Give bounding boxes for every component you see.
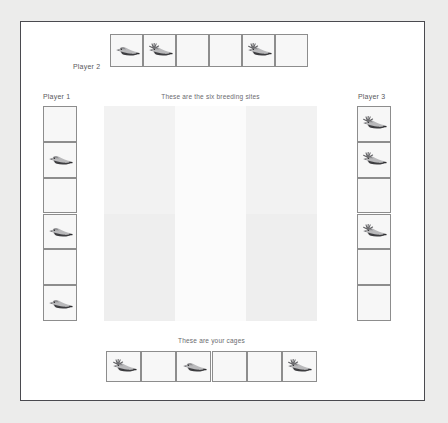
player-1-cage-strip: [43, 106, 77, 321]
crested-bird-icon: [144, 35, 175, 66]
player-2-cell-1[interactable]: [110, 34, 143, 67]
crested-bird-icon: [358, 215, 390, 249]
breeding-site-1[interactable]: [104, 106, 175, 214]
player-3-cell-1[interactable]: [357, 106, 391, 142]
player-1-cell-3[interactable]: [43, 178, 77, 214]
player-1-cell-5[interactable]: [43, 249, 77, 285]
player-2-label: Player 2: [73, 63, 100, 70]
player-1-cell-2[interactable]: [43, 142, 77, 178]
breeding-site-2[interactable]: [175, 106, 246, 214]
your-cage-cell-2[interactable]: [141, 351, 176, 382]
player-1-cell-1[interactable]: [43, 106, 77, 142]
your-cage-cell-3[interactable]: [176, 351, 211, 382]
game-board-frame: Player 2 Player 1 Player 3 These are the…: [20, 21, 425, 401]
crested-bird-icon: [283, 352, 316, 381]
player-2-cell-6[interactable]: [275, 34, 308, 67]
player-3-cell-5[interactable]: [357, 249, 391, 285]
player-3-label: Player 3: [358, 93, 385, 100]
plain-bird-icon: [44, 143, 76, 177]
player-3-cell-3[interactable]: [357, 178, 391, 214]
breeding-sites-grid: [104, 106, 317, 321]
plain-bird-icon: [177, 352, 210, 381]
player-2-cell-5[interactable]: [242, 34, 275, 67]
player-3-cell-4[interactable]: [357, 214, 391, 250]
plain-bird-icon: [44, 286, 76, 320]
player-2-cell-4[interactable]: [209, 34, 242, 67]
player-1-cell-4[interactable]: [43, 214, 77, 250]
player-3-cage-strip: [357, 106, 391, 321]
your-cage-cell-1[interactable]: [106, 351, 141, 382]
crested-bird-icon: [358, 143, 390, 177]
player-2-cell-3[interactable]: [176, 34, 209, 67]
breeding-sites-caption: These are the six breeding sites: [104, 93, 317, 100]
breeding-site-6[interactable]: [246, 214, 317, 322]
crested-bird-icon: [358, 107, 390, 141]
your-cages-caption: These are your cages: [106, 337, 317, 344]
plain-bird-icon: [44, 215, 76, 249]
player-3-cell-2[interactable]: [357, 142, 391, 178]
player-2-cage-strip: [110, 34, 308, 67]
your-cage-cell-6[interactable]: [282, 351, 317, 382]
breeding-site-3[interactable]: [246, 106, 317, 214]
player-2-cell-2[interactable]: [143, 34, 176, 67]
player-1-cell-6[interactable]: [43, 285, 77, 321]
crested-bird-icon: [107, 352, 140, 381]
breeding-site-5[interactable]: [175, 214, 246, 322]
breeding-site-4[interactable]: [104, 214, 175, 322]
your-cages-strip: [106, 351, 317, 382]
plain-bird-icon: [111, 35, 142, 66]
your-cage-cell-4[interactable]: [212, 351, 247, 382]
player-3-cell-6[interactable]: [357, 285, 391, 321]
your-cage-cell-5[interactable]: [247, 351, 282, 382]
crested-bird-icon: [243, 35, 274, 66]
game-board-surface: Player 2 Player 1 Player 3 These are the…: [21, 22, 424, 400]
player-1-label: Player 1: [43, 93, 70, 100]
